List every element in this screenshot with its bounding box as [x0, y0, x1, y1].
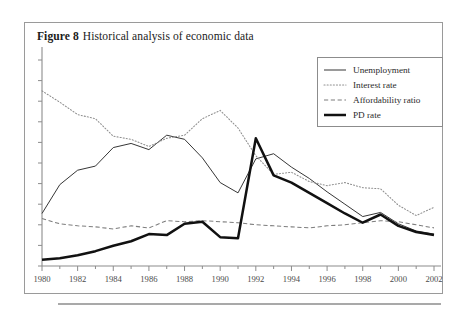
x-tick-label: 2000: [390, 274, 407, 284]
y-axis-ticks: [38, 60, 42, 266]
legend-line-swatch-icon: [323, 65, 347, 75]
legend-item-label: PD rate: [353, 110, 381, 120]
legend-item-label: Interest rate: [353, 80, 397, 90]
x-tick-label: 1990: [212, 274, 229, 284]
x-tick-label: 1998: [354, 274, 371, 284]
x-axis-tick-labels: 1980198219841986198819901992199419961998…: [33, 274, 442, 284]
series-line-affordability-ratio: [42, 219, 434, 229]
figure-container: Figure 8Historical analysis of economic …: [24, 22, 443, 294]
x-axis-ticks: [42, 266, 434, 271]
x-tick-label: 1980: [33, 274, 50, 284]
legend-item-label: Unemployment: [353, 65, 410, 75]
page-horizontal-rule: [58, 303, 441, 305]
x-tick-label: 2002: [425, 274, 442, 284]
legend-line-swatch-icon: [323, 80, 347, 90]
series-line-pd-rate: [42, 138, 434, 260]
x-tick-label: 1984: [105, 274, 123, 284]
legend-item-label: Affordability ratio: [353, 95, 420, 105]
legend-line-swatch-icon: [323, 110, 347, 120]
legend-item-interest-rate[interactable]: Interest rate: [323, 77, 435, 92]
x-tick-label: 1994: [283, 274, 301, 284]
legend-item-unemployment[interactable]: Unemployment: [323, 62, 435, 77]
legend-item-affordability-ratio[interactable]: Affordability ratio: [323, 92, 435, 107]
series-line-unemployment: [42, 135, 434, 234]
x-tick-label: 1982: [69, 274, 86, 284]
x-tick-label: 1988: [176, 274, 193, 284]
chart-legend: UnemploymentInterest rateAffordability r…: [317, 57, 443, 127]
x-tick-label: 1996: [318, 274, 336, 284]
legend-line-swatch-icon: [323, 95, 347, 105]
legend-item-pd-rate[interactable]: PD rate: [323, 107, 435, 122]
x-tick-label: 1992: [247, 274, 264, 284]
x-tick-label: 1986: [140, 274, 158, 284]
